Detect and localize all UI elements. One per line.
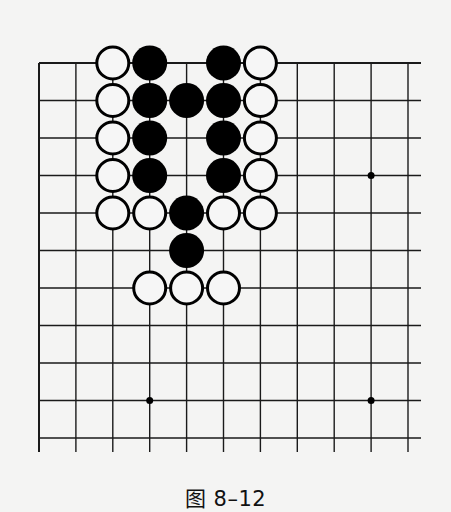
white-stone-icon (244, 160, 276, 192)
black-stone-icon (206, 83, 241, 118)
black-stone-icon (132, 121, 167, 156)
black-stone-icon (132, 46, 167, 81)
white-stone-icon (244, 85, 276, 117)
black-stone-icon (169, 83, 204, 118)
white-stone-icon (208, 197, 240, 229)
white-stone-icon (97, 197, 129, 229)
board-grid (39, 63, 421, 452)
white-stone-icon (134, 197, 166, 229)
white-stone-icon (244, 197, 276, 229)
star-point-icon (368, 172, 375, 179)
white-stone-icon (97, 47, 129, 79)
star-point-icon (146, 397, 153, 404)
white-stone-icon (97, 122, 129, 154)
black-stone-icon (206, 46, 241, 81)
white-stone-icon (171, 272, 203, 304)
white-stone-icon (208, 272, 240, 304)
black-stone-icon (169, 233, 204, 268)
black-stone-icon (206, 121, 241, 156)
black-stone-icon (206, 158, 241, 193)
black-stone-icon (132, 83, 167, 118)
black-stone-icon (169, 196, 204, 231)
black-stone-icon (132, 158, 167, 193)
star-point-icon (368, 397, 375, 404)
go-board-diagram (0, 0, 451, 470)
white-stone-icon (244, 47, 276, 79)
white-stone-icon (97, 160, 129, 192)
figure-caption: 图 8–12 (0, 482, 451, 512)
white-stone-icon (97, 85, 129, 117)
white-stone-icon (134, 272, 166, 304)
white-stone-icon (244, 122, 276, 154)
